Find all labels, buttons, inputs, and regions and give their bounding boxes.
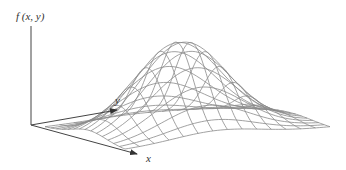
mesh-line <box>68 82 273 129</box>
mesh-line <box>118 51 198 133</box>
surface-plot-figure: f (x, y) y x <box>0 0 346 170</box>
surface-mesh <box>45 42 330 149</box>
mesh-line <box>162 52 242 129</box>
y-axis-label: y <box>114 94 120 106</box>
mesh-line <box>60 119 140 146</box>
mesh-line <box>45 104 250 127</box>
x-axis-label: x <box>145 152 151 164</box>
mesh-line <box>119 119 324 146</box>
mesh-line <box>125 127 330 149</box>
z-axis-label: f (x, y) <box>16 10 45 23</box>
